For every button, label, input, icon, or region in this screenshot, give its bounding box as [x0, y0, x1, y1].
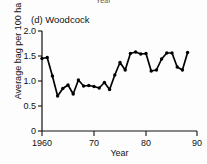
data-point: [98, 86, 101, 89]
data-point: [129, 52, 132, 55]
x-tick-label-90: 90: [192, 138, 202, 148]
y-tick-label-2-0: 2.0: [23, 26, 36, 36]
data-point: [87, 84, 90, 87]
data-point: [51, 74, 54, 77]
data-point: [66, 83, 69, 86]
data-point: [103, 81, 106, 84]
x-axis: 1960 70 80 90: [32, 131, 202, 148]
y-tick-label-0: 0: [31, 126, 36, 136]
data-point: [108, 88, 111, 91]
data-point: [46, 56, 49, 59]
data-point: [176, 65, 179, 68]
data-point: [134, 50, 137, 53]
data-point: [124, 68, 127, 71]
y-axis: 2.0 1.5 1.0 0.5 0: [23, 26, 42, 136]
data-point: [72, 92, 75, 95]
data-point: [118, 61, 121, 64]
data-point: [82, 84, 85, 87]
plot-area: 2.0 1.5 1.0 0.5 0 1960 70 80 90: [0, 0, 207, 164]
data-markers-woodcock: [40, 50, 189, 97]
y-tick-label-0-5: 0.5: [23, 101, 36, 111]
x-tick-marks: [42, 131, 197, 136]
data-point: [61, 87, 64, 90]
y-tick-label-1-0: 1.0: [23, 76, 36, 86]
data-point: [144, 52, 147, 55]
data-point: [92, 85, 95, 88]
x-tick-label-70: 70: [89, 138, 99, 148]
y-tick-label-1-5: 1.5: [23, 51, 36, 61]
data-point: [165, 51, 168, 54]
data-point: [56, 94, 59, 97]
data-point: [40, 57, 43, 60]
data-point: [150, 69, 153, 72]
x-tick-label-80: 80: [141, 138, 151, 148]
data-point: [186, 51, 189, 54]
data-point: [139, 52, 142, 55]
x-tick-label-1960: 1960: [32, 138, 52, 148]
data-point: [155, 68, 158, 71]
data-point: [160, 57, 163, 60]
woodcock-chart-figure: Year (d) Woodcock Average bag per 100 ha…: [0, 0, 207, 164]
data-point: [113, 73, 116, 76]
data-point: [170, 51, 173, 54]
data-point: [77, 78, 80, 81]
data-point: [181, 68, 184, 71]
